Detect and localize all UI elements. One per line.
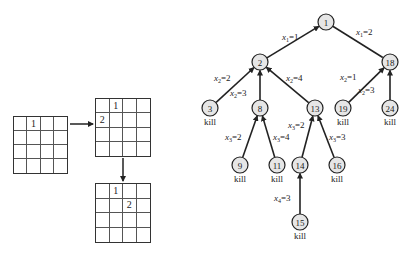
tree-node-11: 11kill	[269, 157, 285, 184]
edge-label: x2=1	[339, 72, 357, 83]
tree-node-14: 14	[292, 157, 308, 173]
node-label: 9	[238, 161, 243, 171]
edge-label: x3=4	[272, 132, 290, 143]
tree-node-8: 8	[252, 100, 268, 116]
tree-node-9: 9kill	[232, 157, 248, 184]
edge-label: x2=3	[229, 88, 247, 99]
tree-node-24: 24kill	[382, 100, 398, 127]
node-label: 19	[339, 104, 349, 114]
edge-label: x3=2	[224, 132, 242, 143]
kill-label: kill	[204, 117, 217, 127]
tree-node-13: 13	[307, 100, 323, 116]
edge-label: x3=2	[287, 120, 305, 131]
node-label: 2	[258, 58, 263, 68]
tree-edge	[243, 116, 258, 157]
kill-label: kill	[294, 231, 307, 241]
node-label: 11	[273, 161, 282, 171]
search-tree-diagram: x1=1x1=2x2=2x2=3x2=4x2=1x2=3x3=2x3=4x3=2…	[0, 0, 413, 253]
node-label: 13	[311, 104, 321, 114]
node-label: 14	[296, 161, 306, 171]
node-label: 8	[258, 104, 263, 114]
node-label: 18	[386, 58, 396, 68]
tree-node-1: 1	[318, 14, 334, 30]
node-label: 16	[333, 161, 343, 171]
node-label: 1	[324, 18, 329, 28]
edge-label: x2=3	[357, 85, 375, 96]
edge-label: x4=3	[273, 193, 291, 204]
kill-label: kill	[384, 117, 397, 127]
edge-label: x2=4	[285, 73, 303, 84]
edge-label: x2=2	[213, 73, 231, 84]
tree-node-3: 3kill	[202, 100, 218, 127]
edge-label: x1=1	[281, 32, 299, 43]
kill-label: kill	[234, 174, 247, 184]
tree-node-16: 16kill	[329, 157, 345, 184]
edge-label: x3=3	[328, 132, 346, 143]
kill-label: kill	[337, 117, 350, 127]
tree-node-18: 18	[382, 54, 398, 70]
tree-node-19: 19kill	[335, 100, 351, 127]
edge-label: x1=2	[355, 27, 373, 38]
board-arrows	[70, 124, 123, 181]
node-label: 24	[386, 104, 396, 114]
tree-node-2: 2	[252, 54, 268, 70]
tree-node-15: 15kill	[292, 214, 308, 241]
kill-label: kill	[331, 174, 344, 184]
node-label: 3	[208, 104, 213, 114]
kill-label: kill	[271, 174, 284, 184]
node-label: 15	[296, 218, 306, 228]
